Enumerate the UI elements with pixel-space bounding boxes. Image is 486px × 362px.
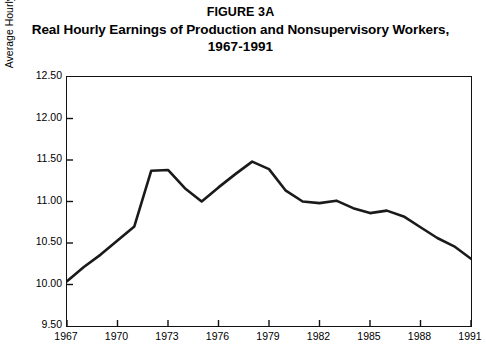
figure-number: FIGURE 3A [0,4,481,21]
x-tick-label: 1985 [347,330,391,342]
y-tick-label: 10.50 [24,236,62,247]
y-tick-label: 9.50 [24,319,62,330]
y-tick-label: 12.50 [24,70,62,81]
x-tick-label: 1973 [145,330,189,342]
y-tick-label: 12.00 [24,112,62,123]
x-tick-label: 1991 [448,330,486,342]
earnings-data-line [67,162,471,282]
x-axis-tick-labels: 196719701973197619791982198519881991 [0,330,481,346]
x-tick-label: 1967 [44,330,88,342]
x-tick-label: 1979 [246,330,290,342]
y-tick-label: 11.50 [24,153,62,164]
figure-title-block: FIGURE 3A Real Hourly Earnings of Produc… [0,4,481,55]
figure-subtitle-years: 1967-1991 [0,38,481,55]
y-tick-label: 11.00 [24,195,62,206]
y-axis-tick-labels: 12.5012.0011.5011.0010.5010.009.50 [20,0,62,362]
x-tick-label: 1970 [95,330,139,342]
x-tick-label: 1976 [196,330,240,342]
line-chart-svg [67,77,471,326]
y-axis-title: Average Hourly Earnings (1991 Dollars) [2,0,16,100]
y-tick-label: 10.00 [24,278,62,289]
plot-area [66,76,472,327]
x-tick-label: 1982 [297,330,341,342]
figure-title: Real Hourly Earnings of Production and N… [0,21,481,38]
x-tick-label: 1988 [398,330,442,342]
